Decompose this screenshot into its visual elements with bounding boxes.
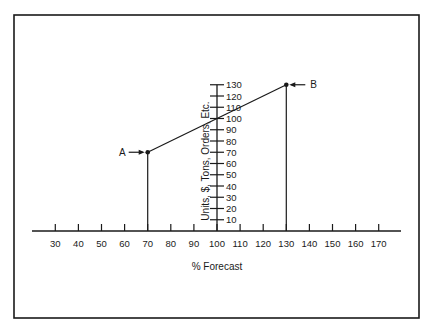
x-tick-label: 100 bbox=[209, 238, 225, 249]
chart: 30405060708090100110120130140150160170 1… bbox=[0, 0, 435, 334]
y-axis: 102030405060708090100110120130 bbox=[210, 79, 242, 231]
annotation-label: A bbox=[119, 147, 126, 158]
y-tick-label: 20 bbox=[226, 203, 237, 214]
y-tick-label: 70 bbox=[226, 147, 237, 158]
x-tick-label: 120 bbox=[255, 238, 271, 249]
y-tick-label: 50 bbox=[226, 169, 237, 180]
y-tick-label: 10 bbox=[226, 214, 237, 225]
arrow-head-icon bbox=[289, 82, 295, 87]
x-tick-label: 30 bbox=[50, 238, 61, 249]
x-tick-label: 170 bbox=[371, 238, 387, 249]
x-tick-label: 50 bbox=[96, 238, 107, 249]
x-tick-label: 110 bbox=[233, 238, 248, 249]
y-tick-label: 120 bbox=[226, 91, 242, 102]
x-tick-label: 160 bbox=[348, 238, 364, 249]
y-tick-label: 80 bbox=[226, 136, 237, 147]
data-point bbox=[145, 150, 150, 155]
y-tick-label: 90 bbox=[226, 124, 237, 135]
x-tick-label: 80 bbox=[166, 238, 177, 249]
x-tick-label: 40 bbox=[73, 238, 84, 249]
y-tick-label: 30 bbox=[226, 192, 237, 203]
x-tick-label: 150 bbox=[325, 238, 341, 249]
x-tick-label: 60 bbox=[119, 238, 130, 249]
x-tick-label: 70 bbox=[142, 238, 153, 249]
y-tick-label: 100 bbox=[226, 113, 242, 124]
x-tick-label: 90 bbox=[189, 238, 200, 249]
y-tick-label: 60 bbox=[226, 158, 237, 169]
arrow-head-icon bbox=[139, 150, 145, 155]
y-axis-label: Units, $, Tons, Orders, Etc. bbox=[200, 101, 211, 220]
x-tick-label: 140 bbox=[301, 238, 317, 249]
y-tick-label: 40 bbox=[226, 181, 237, 192]
data-point bbox=[284, 82, 289, 87]
x-axis-label: % Forecast bbox=[192, 261, 243, 272]
y-tick-label: 130 bbox=[226, 79, 242, 90]
annotation-label: B bbox=[310, 79, 317, 90]
x-tick-label: 130 bbox=[278, 238, 294, 249]
x-axis-ticks: 30405060708090100110120130140150160170 bbox=[50, 224, 387, 249]
